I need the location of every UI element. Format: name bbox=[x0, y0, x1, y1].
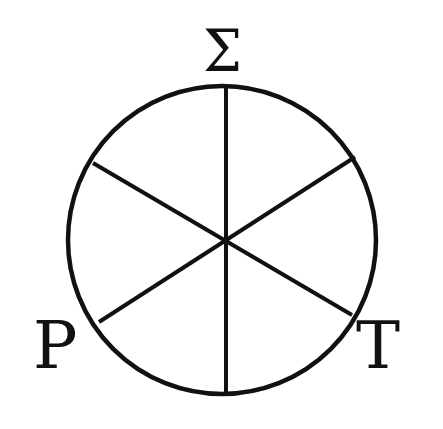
label-rho: Ρ bbox=[33, 313, 77, 379]
label-sigma: Σ bbox=[203, 22, 242, 80]
label-tau: Τ bbox=[356, 313, 400, 379]
